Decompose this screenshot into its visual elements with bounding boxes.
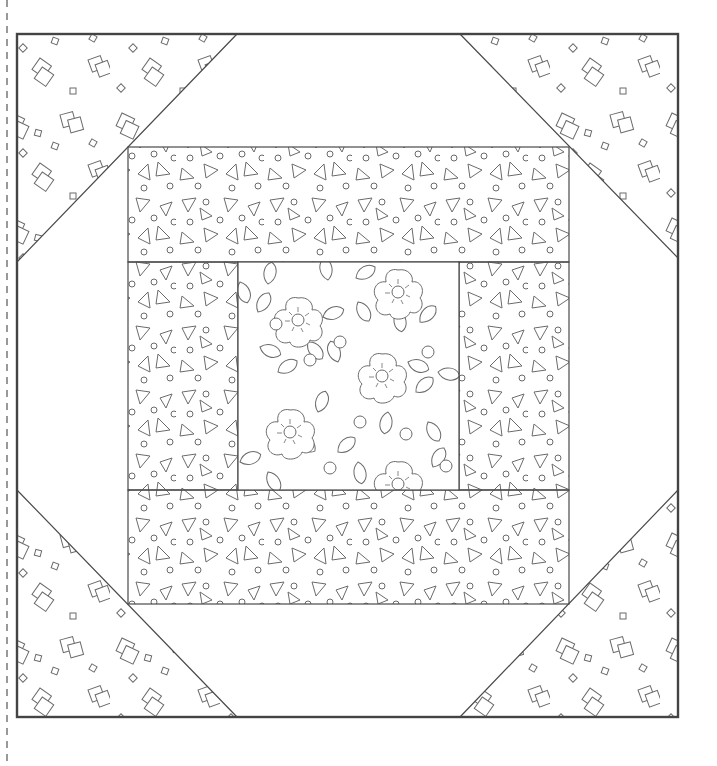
quilt-block-diagram: [0, 0, 717, 766]
right-strip: [459, 262, 569, 490]
bottom-strip: [128, 490, 569, 604]
top-strip: [128, 147, 569, 262]
left-strip: [128, 262, 238, 490]
center-square: [238, 262, 459, 490]
